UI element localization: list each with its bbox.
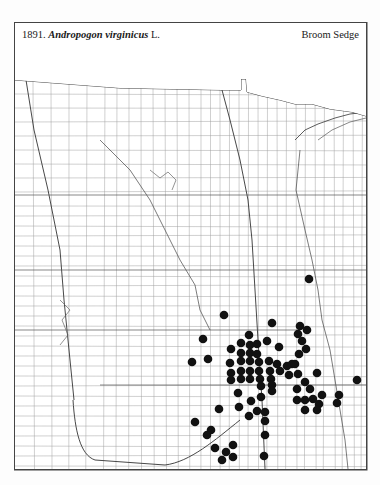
occurrence-dot [268, 319, 277, 328]
occurrence-dot [188, 358, 197, 367]
occurrence-dot [266, 367, 275, 376]
occurrence-dot [191, 418, 200, 427]
occurrence-dot [261, 408, 270, 417]
occurrence-dot [237, 349, 246, 358]
occurrence-dot [305, 275, 314, 284]
occurrence-dot [222, 448, 231, 457]
occurrence-dot [253, 407, 262, 416]
species-author: L. [151, 29, 160, 40]
occurrence-dot [253, 340, 262, 349]
occurrence-dot [237, 367, 246, 376]
occurrence-dot [235, 403, 244, 412]
occurrence-dot [261, 417, 270, 426]
map-page: 1891. Andropogon virginicus L. Broom Sed… [0, 0, 380, 485]
occurrence-dot [335, 391, 344, 400]
occurrence-dot [204, 355, 213, 364]
occurrence-dot [276, 367, 285, 376]
occurrence-dot [301, 378, 310, 387]
occurrence-dot [291, 360, 300, 369]
species-name: Andropogon virginicus [48, 29, 148, 40]
occurrence-dot [245, 412, 254, 421]
occurrence-dot [301, 396, 310, 405]
occurrence-dot [211, 444, 220, 453]
occurrence-dot [263, 337, 272, 346]
county-grid [15, 80, 373, 476]
occurrence-dot [265, 357, 274, 366]
occurrence-dot [227, 345, 236, 354]
occurrence-dot [234, 389, 243, 398]
occurrence-dot [295, 350, 304, 359]
occurrence-dot [294, 370, 303, 379]
plate-number: 1891. [22, 29, 46, 40]
occurrence-dot [255, 358, 264, 367]
occurrence-dot [237, 339, 246, 348]
occurrence-dot [220, 311, 229, 320]
occurrence-dot [257, 382, 266, 391]
occurrence-dot [199, 335, 208, 344]
occurrence-dot [333, 399, 342, 408]
occurrence-dot [298, 337, 307, 346]
occurrence-dot [246, 367, 255, 376]
plate-title: 1891. Andropogon virginicus L. [22, 28, 160, 42]
occurrence-dot [245, 331, 254, 340]
occurrence-dot [261, 431, 270, 440]
occurrence-dot [285, 371, 294, 380]
occurrence-dot [246, 357, 255, 366]
occurrence-dot [237, 357, 246, 366]
occurrence-dot [247, 397, 256, 406]
occurrence-dot [301, 406, 310, 415]
plate-header: 1891. Andropogon virginicus L. Broom Sed… [22, 28, 359, 42]
occurrence-dot [257, 393, 266, 402]
occurrence-dot [237, 375, 246, 384]
occurrence-dot [246, 375, 255, 384]
occurrence-dot [313, 369, 322, 378]
occurrence-dot [293, 385, 302, 394]
occurrence-dot [255, 367, 264, 376]
occurrence-dot [203, 431, 212, 440]
occurrence-dot [218, 456, 227, 465]
occurrence-dot [306, 385, 315, 394]
occurrence-dot [293, 396, 302, 405]
occurrence-dot [229, 441, 238, 450]
occurrence-dot [226, 359, 235, 368]
occurrence-dot [353, 376, 362, 385]
occurrence-dot [227, 376, 236, 385]
occurrence-dot [268, 387, 277, 396]
common-name: Broom Sedge [302, 28, 359, 42]
occurrence-dot [318, 391, 327, 400]
distribution-map [0, 0, 380, 485]
occurrence-dot [215, 405, 224, 414]
occurrence-dot [260, 452, 269, 461]
occurrence-dot [302, 345, 311, 354]
occurrence-dot [253, 350, 262, 359]
occurrence-dot [313, 406, 322, 415]
occurrence-dot [303, 326, 312, 335]
occurrence-dot [275, 343, 284, 352]
occurrence-dot [229, 453, 238, 462]
